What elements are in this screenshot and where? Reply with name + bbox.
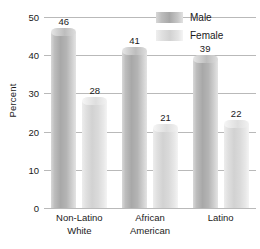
bar-top-cap bbox=[193, 55, 218, 63]
gridline: 0 bbox=[44, 208, 256, 209]
y-axis-tick-label: 40 bbox=[28, 50, 39, 61]
y-axis-tick-label: 50 bbox=[28, 12, 39, 23]
y-axis-title: Percent bbox=[7, 61, 18, 141]
y-axis-tick-label: 0 bbox=[34, 203, 39, 214]
legend-label: Male bbox=[190, 12, 212, 23]
bar-chart: Percent 01020304050 462841213922 Non-Lat… bbox=[0, 0, 260, 249]
legend-item-female[interactable]: Female bbox=[156, 28, 252, 43]
bar-value-label: 28 bbox=[90, 85, 101, 96]
bar-female: 28 bbox=[82, 101, 107, 208]
bar-value-label: 41 bbox=[129, 35, 140, 46]
category-label: AfricanAmerican bbox=[115, 212, 186, 237]
legend: MaleFemale bbox=[156, 10, 252, 46]
legend-swatch-female bbox=[156, 30, 183, 41]
bar-female: 21 bbox=[153, 128, 178, 208]
legend-label: Female bbox=[190, 30, 223, 41]
category-label-line: White bbox=[44, 225, 115, 238]
x-axis-category-labels: Non-LatinoWhiteAfricanAmericanLatino bbox=[44, 212, 256, 246]
legend-item-male[interactable]: Male bbox=[156, 10, 252, 25]
bar-top-cap bbox=[224, 120, 249, 128]
category-label-line: American bbox=[115, 225, 186, 238]
bar-group: 4628 bbox=[44, 17, 115, 208]
bar-male: 41 bbox=[122, 51, 147, 208]
category-label: Latino bbox=[185, 212, 256, 225]
category-label-line: Non-Latino bbox=[44, 212, 115, 225]
y-axis-tick-label: 10 bbox=[28, 164, 39, 175]
bar-top-cap bbox=[82, 97, 107, 105]
bar-top-cap bbox=[51, 28, 76, 36]
legend-swatch-male bbox=[156, 12, 183, 23]
bar-male: 46 bbox=[51, 32, 76, 208]
bar-top-cap bbox=[153, 124, 178, 132]
bar-value-label: 46 bbox=[59, 16, 70, 27]
category-label: Non-LatinoWhite bbox=[44, 212, 115, 237]
bar-male: 39 bbox=[193, 59, 218, 208]
category-label-line: African bbox=[115, 212, 186, 225]
y-axis-tick-label: 20 bbox=[28, 126, 39, 137]
y-axis-tick-label: 30 bbox=[28, 88, 39, 99]
bar-top-cap bbox=[122, 47, 147, 55]
bar-value-label: 22 bbox=[231, 108, 242, 119]
bar-female: 22 bbox=[224, 124, 249, 208]
bar-value-label: 21 bbox=[160, 112, 171, 123]
category-label-line: Latino bbox=[185, 212, 256, 225]
